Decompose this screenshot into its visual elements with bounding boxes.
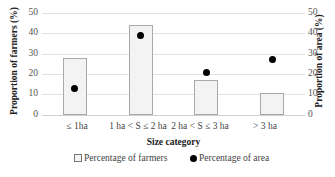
- x-tick-label: 1 ha < S ≤ 2 ha: [108, 121, 168, 131]
- x-tick-label: 2 ha < S ≤ 3 ha: [170, 121, 230, 131]
- bar-farmers: [260, 93, 284, 115]
- dot-area: [137, 32, 144, 39]
- legend-label: Percentage of farmers: [84, 153, 167, 163]
- legend-label: Percentage of area: [199, 153, 269, 163]
- y-tick-left: 20: [24, 68, 38, 78]
- y-tick-left: 10: [24, 88, 38, 98]
- y-axis-left-label: Proportion of farmers (%): [9, 6, 19, 116]
- legend-item-area: Percentage of area: [190, 153, 269, 163]
- y-tick-right: 20: [308, 68, 322, 78]
- x-axis-label: Size category: [42, 137, 305, 147]
- y-tick-right: 30: [308, 48, 322, 58]
- y-tick-left: 0: [24, 109, 38, 119]
- dot-swatch-icon: [190, 155, 197, 162]
- dot-area: [203, 69, 210, 76]
- dot-area: [269, 56, 276, 63]
- bar-farmers: [194, 80, 218, 115]
- y-tick-right: 50: [308, 7, 322, 17]
- y-tick-right: 10: [308, 88, 322, 98]
- y-tick-left: 30: [24, 48, 38, 58]
- gridline: [42, 13, 305, 14]
- x-axis-line: [42, 115, 305, 116]
- legend-item-farmers: Percentage of farmers: [74, 153, 167, 163]
- gridline: [42, 33, 305, 34]
- y-tick-right: 40: [308, 27, 322, 37]
- x-tick-label: ≤ 1ha: [57, 121, 97, 131]
- y-axis-right-label: Proportion of area (%): [314, 6, 324, 116]
- y-tick-left: 40: [24, 27, 38, 37]
- y-tick-left: 50: [24, 7, 38, 17]
- x-tick-label: > 3 ha: [245, 121, 285, 131]
- gridline: [42, 54, 305, 55]
- bar-swatch-icon: [74, 154, 82, 162]
- y-tick-right: 0: [308, 109, 322, 119]
